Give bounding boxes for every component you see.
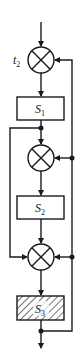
junction-dot [39, 329, 44, 334]
summing-junction-3 [28, 244, 54, 270]
junction-dot [70, 255, 75, 260]
input-label: t2 [13, 53, 20, 69]
junction-dot [70, 156, 75, 161]
summing-junction-1 [28, 47, 54, 73]
summing-junction-2 [28, 145, 54, 171]
block-diagram: t2 S1 S2 S3 [0, 0, 84, 363]
junction-dot [39, 126, 44, 131]
